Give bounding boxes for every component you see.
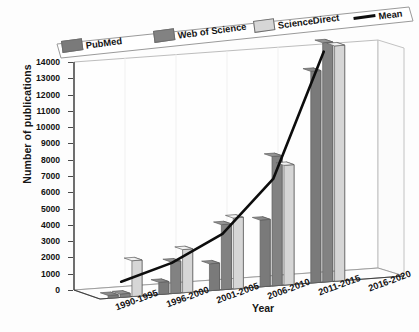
- chart-legend: PubMedWeb of ScienceScienceDirectMean: [57, 10, 417, 54]
- legend-swatch: [61, 38, 83, 53]
- bar: [303, 68, 321, 283]
- bar: [252, 217, 270, 287]
- bar: [100, 292, 118, 298]
- legend-swatch: [153, 28, 175, 43]
- y-axis-title: Number of publications: [21, 49, 33, 199]
- bar: [124, 257, 142, 296]
- chart-figure: 0100020003000400050006000700080009000100…: [0, 0, 419, 332]
- x-axis-title: Year: [252, 302, 274, 314]
- legend-line-marker: [353, 14, 375, 20]
- legend-swatch: [253, 18, 275, 33]
